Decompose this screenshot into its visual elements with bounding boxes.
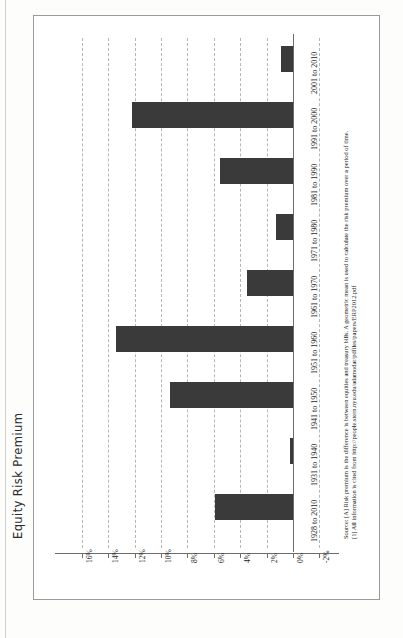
axis-tick bbox=[293, 553, 294, 558]
plot-area: 16%14%12%10%8%6%4%2%0%-2% 1928 to 201019… bbox=[34, 16, 379, 599]
category-label: 1928 to 2010 bbox=[310, 500, 319, 542]
bar bbox=[281, 46, 293, 72]
gridline bbox=[319, 38, 320, 548]
axis-tick bbox=[108, 553, 109, 558]
axis-tick bbox=[214, 553, 215, 558]
axis-tick-label: 4% bbox=[243, 553, 252, 563]
scanned-page: Equity Risk Premium 16%14%12%10%8%6%4%2%… bbox=[0, 0, 403, 638]
source-note-line: [1] All information is cited from http:/… bbox=[350, 286, 357, 539]
axis-tick bbox=[82, 553, 83, 558]
axis-tick-label: 14% bbox=[111, 549, 120, 563]
zero-axis-line bbox=[293, 34, 294, 552]
axis-tick bbox=[240, 553, 241, 558]
axis-tick-label: 12% bbox=[138, 549, 147, 563]
category-label: 1991 to 2000 bbox=[310, 108, 319, 150]
bar bbox=[215, 494, 293, 520]
axis-tick-label: -2% bbox=[322, 551, 331, 564]
category-label: 1941 to 1950 bbox=[310, 388, 319, 430]
bar bbox=[116, 326, 293, 352]
axis-tick-label: 8% bbox=[190, 553, 199, 563]
axis-tick-label: 10% bbox=[164, 549, 173, 563]
bar bbox=[276, 214, 293, 240]
category-label: 1961 to 1970 bbox=[310, 276, 319, 318]
bar bbox=[132, 102, 293, 128]
page-edge-line bbox=[5, 0, 6, 638]
axis-tick bbox=[267, 553, 268, 558]
category-label: 1951 to 1960 bbox=[310, 332, 319, 374]
bar bbox=[290, 438, 293, 464]
axis-tick bbox=[319, 553, 320, 558]
axis-tick bbox=[187, 553, 188, 558]
source-note-line: Source: [A] Risk premium is the differen… bbox=[342, 131, 349, 539]
axis-tick bbox=[135, 553, 136, 558]
category-label: 2001 to 2010 bbox=[310, 52, 319, 94]
axis-tick-label: 6% bbox=[217, 553, 226, 563]
category-label: 1981 to 1990 bbox=[310, 164, 319, 206]
category-label: 1971 to 1980 bbox=[310, 220, 319, 262]
chart-frame: 16%14%12%10%8%6%4%2%0%-2% 1928 to 201019… bbox=[33, 15, 380, 600]
gridline bbox=[108, 38, 109, 548]
bar bbox=[247, 270, 293, 296]
bar bbox=[220, 158, 293, 184]
axis-tick-label: 0% bbox=[296, 553, 305, 563]
axis-tick-label: 16% bbox=[85, 549, 94, 563]
axis-tick-label: 2% bbox=[270, 553, 279, 563]
gridline bbox=[82, 38, 83, 548]
bar bbox=[170, 382, 293, 408]
axis-tick bbox=[161, 553, 162, 558]
category-label: 1931 to 1940 bbox=[310, 444, 319, 486]
page-title: Equity Risk Premium bbox=[11, 379, 25, 539]
